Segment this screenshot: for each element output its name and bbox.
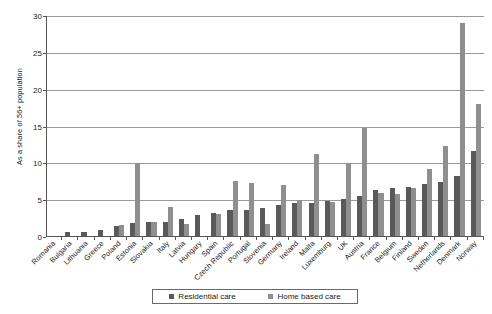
x-label-cell: Norway (468, 240, 484, 288)
plot-area: 051015202530 (46, 16, 484, 237)
x-axis-labels: RomaniaBulgariaLithuaniaGreecePolandEsto… (46, 240, 484, 288)
y-tick-label: 10 (33, 159, 42, 168)
chart-legend: Residential care Home based care (152, 289, 358, 304)
y-axis-title: As a share of 56+ population (15, 37, 24, 197)
y-tick-label: 0 (38, 233, 42, 242)
legend-label-home-based-care: Home based care (277, 292, 340, 301)
legend-label-residential-care: Residential care (178, 292, 235, 301)
plot-frame (46, 16, 484, 237)
legend-swatch-residential-care (169, 294, 174, 299)
y-tick-label: 25 (33, 48, 42, 57)
y-tick-label: 20 (33, 85, 42, 94)
y-tick-label: 5 (38, 196, 42, 205)
legend-item-residential-care: Residential care (169, 292, 235, 301)
y-tick-label: 15 (33, 122, 42, 131)
x-label-cell: Luxemburg (322, 240, 338, 288)
legend-item-home-based-care: Home based care (268, 292, 340, 301)
y-tick-label: 30 (33, 12, 42, 21)
legend-swatch-home-based-care (268, 294, 273, 299)
bar-chart: As a share of 56+ population 05101520253… (0, 0, 492, 314)
